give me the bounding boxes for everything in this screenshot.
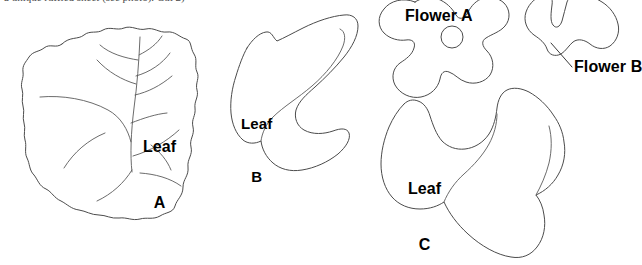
pattern-shapes-canvas <box>0 0 642 265</box>
flower-b-outline <box>525 0 619 55</box>
label-leaf-c: Leaf C <box>408 142 441 265</box>
label-leaf-a-line2: A <box>143 194 176 213</box>
label-leaf-b-line1: Leaf <box>241 115 272 133</box>
label-leaf-b: Leaf B <box>241 80 272 222</box>
label-flower-a: Flower A <box>405 7 473 26</box>
shape-flower-b[interactable] <box>525 0 619 67</box>
label-leaf-a: Leaf A <box>143 100 176 251</box>
label-leaf-b-line2: B <box>241 168 272 186</box>
flower-a-center-hole <box>441 26 463 48</box>
pattern-sheet: a unique ruffled sheet (see photo). Cut … <box>0 0 642 265</box>
label-leaf-a-line1: Leaf <box>143 138 176 157</box>
label-leaf-c-line2: C <box>408 236 441 255</box>
label-leaf-c-line1: Leaf <box>408 180 441 199</box>
label-flower-b: Flower B <box>574 58 642 77</box>
